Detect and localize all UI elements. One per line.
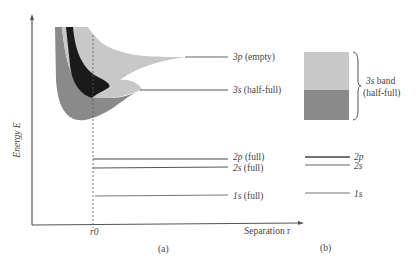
x-axis-label: Separation r: [244, 226, 291, 236]
label-3p: 3p (empty): [232, 52, 275, 63]
r0-label: r0: [90, 227, 99, 237]
y-axis-label: Energy E: [12, 122, 22, 158]
level-2s-line: [93, 167, 228, 168]
label-2s: 2s (full): [233, 163, 263, 174]
label-1s: 1s (full): [233, 191, 263, 202]
y-axis-arrow-icon: [30, 14, 34, 20]
panel-label-b: (b): [320, 243, 331, 254]
band-b-lower-filled: [304, 90, 349, 120]
energy-band-diagram: 3p (empty) 3s (half-full) 2p (full) 2s (…: [0, 0, 418, 266]
label-b-2s: 2s: [354, 161, 363, 171]
band-b-label-line2: (half-full): [363, 88, 400, 99]
x-axis: [32, 223, 300, 225]
label-b-1s: 1s: [354, 189, 363, 199]
band-b-label-line1: 3s band: [365, 76, 396, 86]
label-2p: 2p (full): [233, 152, 264, 163]
band-b-upper-empty: [304, 52, 349, 90]
label-3s: 3s (half-full): [232, 85, 281, 96]
panel-label-a: (a): [158, 244, 169, 255]
brace-icon: [353, 52, 361, 120]
level-1s-line: [95, 195, 228, 196]
x-axis-arrow-icon: [298, 221, 304, 225]
